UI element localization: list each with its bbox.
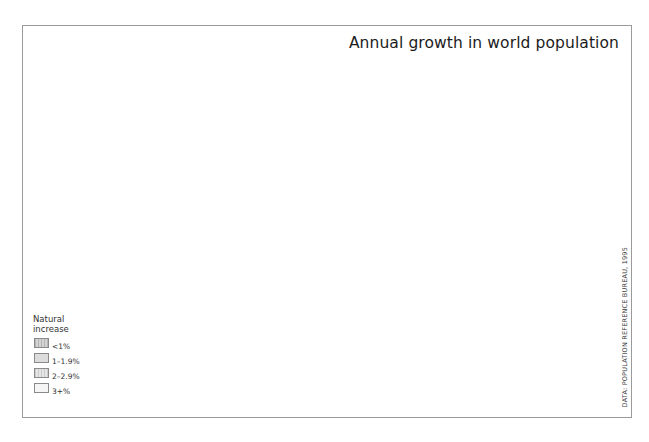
legend-item-lt1: <1% [34, 337, 80, 349]
legend-title: Natural increase [33, 314, 80, 334]
swatch-stripe-medium [34, 368, 49, 378]
legend: Natural increase <1% 1–1.9% 2–2.9% 3+% [33, 314, 80, 397]
legend-item-2-2.9: 2–2.9% [34, 367, 80, 379]
legend-label: 2–2.9% [52, 372, 80, 381]
legend-title-line2: increase [33, 324, 80, 334]
legend-item-1-1.9: 1–1.9% [34, 352, 80, 364]
legend-label: 1–1.9% [52, 357, 80, 366]
legend-item-3plus: 3+% [34, 382, 80, 394]
swatch-light [34, 383, 49, 393]
legend-title-line1: Natural [33, 314, 80, 324]
legend-label: <1% [52, 342, 70, 351]
swatch-solid-grey [34, 353, 49, 363]
source-credit: DATA: POPULATION REFERENCE BUREAU, 1995 [621, 247, 629, 407]
legend-label: 3+% [52, 387, 70, 396]
swatch-stripe-dark [34, 338, 49, 348]
map-title: Annual growth in world population [349, 34, 619, 52]
map-frame: Annual growth in world population Natura… [22, 25, 632, 418]
